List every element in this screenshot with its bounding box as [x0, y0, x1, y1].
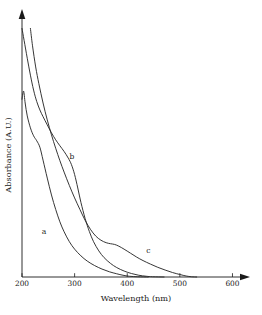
x-tick-label-600: 600: [225, 279, 239, 288]
curve-b: [22, 28, 164, 277]
x-tick-label-200: 200: [15, 279, 29, 288]
curve-label-c: c: [146, 246, 150, 255]
curve-label-b: b: [70, 152, 75, 161]
curve-c: [30, 28, 196, 277]
y-axis-arrowhead: [19, 9, 26, 19]
x-tick-label-500: 500: [173, 279, 187, 288]
x-axis-title: Wavelength (nm): [101, 293, 172, 303]
x-tick-label-400: 400: [120, 279, 134, 288]
spectra-curves: [22, 28, 197, 277]
uv-vis-absorbance-chart: 200300400500600 abc Wavelength (nm) Abso…: [0, 0, 262, 315]
curve-a: [22, 91, 148, 277]
x-axis-arrowhead: [240, 274, 250, 281]
x-axis-tick-labels: 200300400500600: [15, 279, 240, 288]
curve-labels: abc: [42, 152, 151, 255]
y-axis-title: Absorbance (A.U.): [3, 117, 13, 193]
x-tick-label-300: 300: [68, 279, 82, 288]
curve-label-a: a: [42, 227, 47, 236]
plot-axes: [19, 9, 250, 280]
